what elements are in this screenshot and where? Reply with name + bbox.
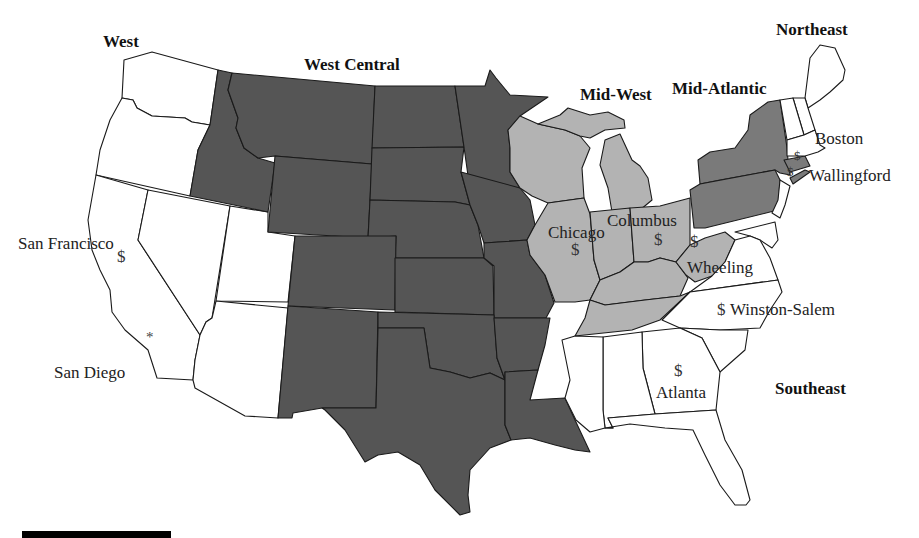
city-marker-san-diego: * <box>146 329 154 345</box>
city-label-san-francisco: San Francisco <box>18 234 114 253</box>
city-marker-chicago: $ <box>571 240 580 259</box>
region-label-northeast: Northeast <box>776 20 848 39</box>
city-label-san-diego: San Diego <box>54 363 125 382</box>
city-marker-winston-salem: $ <box>717 300 726 319</box>
city-label-winston-salem: Winston-Salem <box>730 300 835 319</box>
city-marker-atlanta: $ <box>674 361 683 380</box>
city-label-wheeling: Wheeling <box>687 258 754 277</box>
scale-bar <box>22 531 171 538</box>
city-marker-boston: $ <box>794 148 801 163</box>
city-label-atlanta: Atlanta <box>656 383 706 402</box>
city-label-wallingford: Wallingford <box>809 166 891 185</box>
state-wyoming <box>268 156 372 238</box>
region-label-mid-west: Mid-West <box>580 85 652 104</box>
state-new-mexico <box>278 306 378 418</box>
city-label-boston: Boston <box>815 129 864 148</box>
state-florida <box>605 410 750 505</box>
city-marker-wallingford: $ <box>787 164 794 179</box>
state-kansas <box>395 258 494 315</box>
city-marker-wheeling: $ <box>690 232 699 251</box>
city-marker-san-francisco: $ <box>117 247 126 266</box>
region-label-west-central: West Central <box>304 55 400 74</box>
city-label-columbus: Columbus <box>607 211 677 230</box>
state-maine <box>805 45 845 108</box>
region-label-west: West <box>103 32 139 51</box>
state-montana <box>228 73 375 164</box>
us-region-map: West West Central Mid-West Mid-Atlantic … <box>0 0 919 538</box>
state-north-dakota <box>372 86 464 148</box>
region-label-mid-atlantic: Mid-Atlantic <box>672 79 767 98</box>
region-label-southeast: Southeast <box>775 379 846 398</box>
state-colorado <box>288 236 396 310</box>
state-south-dakota <box>370 147 470 205</box>
city-marker-columbus: $ <box>654 230 663 249</box>
state-michigan-lower <box>600 134 652 212</box>
